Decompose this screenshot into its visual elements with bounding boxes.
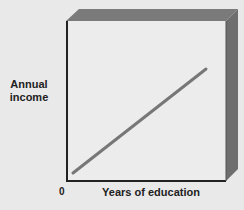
plot-area xyxy=(66,21,226,181)
box-top-band xyxy=(66,9,238,21)
box-right-band xyxy=(226,9,238,181)
x-axis-label: Years of education xyxy=(96,186,206,198)
y-axis-label: Annual income xyxy=(6,78,52,104)
chart-frame xyxy=(0,0,244,210)
origin-label: 0 xyxy=(59,186,65,197)
